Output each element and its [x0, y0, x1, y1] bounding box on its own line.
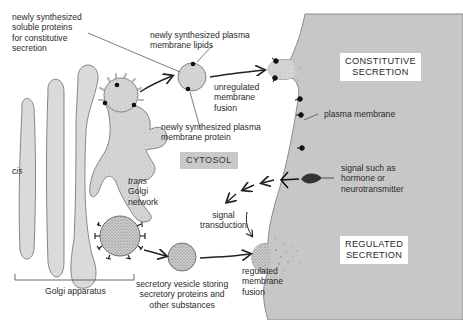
label-line: for constitutive	[12, 33, 82, 43]
label-line: SECRETION	[345, 250, 403, 261]
label-golgi-apparatus: Golgi apparatus	[45, 286, 106, 296]
label-soluble-proteins: newly synthesized soluble proteins for c…	[12, 12, 82, 54]
label-line: secretion	[12, 43, 82, 53]
label-line: secretory proteins and	[136, 289, 228, 299]
label-line: membrane protein	[161, 132, 261, 142]
label-cis: cis	[12, 166, 23, 176]
label-trans-golgi-network: trans Golgi network	[128, 176, 158, 207]
label-line: Golgi	[128, 186, 158, 196]
label-regulated-secretion: REGULATED SECRETION	[340, 236, 408, 264]
label-cytosol: CYTOSOL	[180, 152, 238, 169]
secretory-pathway-diagram: newly synthesized soluble proteins for c…	[0, 0, 463, 320]
label-membrane-lipids: newly synthesized plasma membrane lipids	[150, 30, 250, 51]
label-line: newly synthesized plasma	[150, 30, 250, 40]
label-line: REGULATED	[345, 239, 403, 250]
label-plasma-membrane: plasma membrane	[324, 109, 395, 119]
label-line: newly synthesized plasma	[161, 122, 261, 132]
label-line: fusion	[214, 103, 259, 113]
label-constitutive-secretion: CONSTITUTIVE SECRETION	[340, 53, 421, 81]
label-line: regulated	[242, 266, 283, 276]
label-line: signal such as	[341, 163, 404, 173]
label-line: network	[128, 197, 158, 207]
label-line: soluble proteins	[12, 22, 82, 32]
label-line: other substances	[136, 300, 228, 310]
label-line: trans	[128, 176, 158, 186]
label-signal: signal such as hormone or neurotransmitt…	[341, 163, 404, 194]
label-line: transduction	[200, 220, 247, 230]
label-line: CONSTITUTIVE	[345, 56, 416, 67]
label-line: newly synthesized	[12, 12, 82, 22]
label-line: fusion	[242, 287, 283, 297]
transport-vesicle-constitutive	[178, 62, 206, 92]
label-line: membrane lipids	[150, 40, 250, 50]
label-signal-transduction: signal transduction	[200, 210, 247, 231]
label-line: SECRETION	[345, 67, 416, 78]
label-secretory-vesicle: secretory vesicle storing secretory prot…	[136, 279, 228, 310]
label-regulated-fusion: regulated membrane fusion	[242, 266, 283, 297]
label-line: unregulated	[214, 82, 259, 92]
label-line: membrane	[214, 92, 259, 102]
label-line: neurotransmitter	[341, 184, 404, 194]
label-line: membrane	[242, 276, 283, 286]
label-line: signal	[200, 210, 247, 220]
secretory-storage-vesicle	[168, 243, 196, 271]
label-line: hormone or	[341, 173, 404, 183]
label-membrane-protein: newly synthesized plasma membrane protei…	[161, 122, 261, 143]
label-unregulated-fusion: unregulated membrane fusion	[214, 82, 259, 113]
label-line: secretory vesicle storing	[136, 279, 228, 289]
budding-vesicle-secretory	[95, 216, 145, 259]
